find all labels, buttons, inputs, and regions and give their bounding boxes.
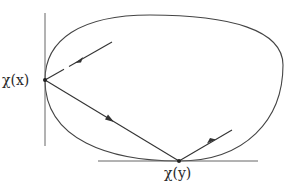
arrowhead-chord-icon: [105, 115, 114, 123]
point-chi-y: [177, 159, 181, 163]
incoming-ray-tail: [45, 69, 64, 80]
outgoing-ray: [179, 130, 232, 161]
diagram-canvas: [0, 0, 297, 189]
label-chi-x: χ(x): [2, 73, 29, 87]
closed-curve: [45, 15, 283, 161]
point-chi-x: [43, 78, 47, 82]
label-chi-y: χ(y): [164, 166, 191, 180]
